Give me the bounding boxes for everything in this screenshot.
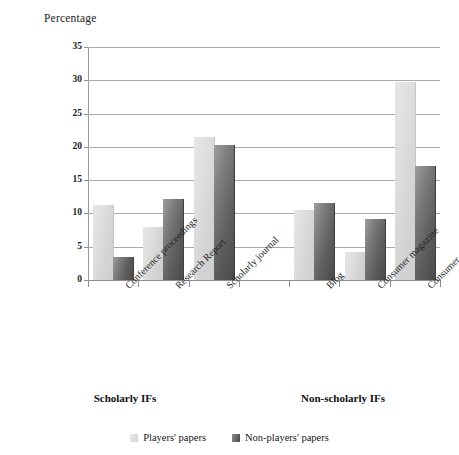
legend-label-players: Players' papers bbox=[143, 432, 206, 443]
y-tick-label-10: 10 bbox=[73, 209, 83, 219]
legend-label-non-players: Non-players' papers bbox=[245, 432, 329, 443]
legend: Players' papers Non-players' papers bbox=[0, 432, 459, 443]
y-tick-label-25: 25 bbox=[73, 109, 83, 119]
y-tick-label-0: 0 bbox=[77, 275, 82, 285]
y-tick-label-5: 5 bbox=[77, 242, 82, 252]
y-tick-label-20: 20 bbox=[73, 142, 83, 152]
bar-consumer-magazine-non-players bbox=[365, 219, 386, 280]
y-axis-title: Percentage bbox=[44, 12, 96, 24]
group-label-scholarly: Scholarly IFs bbox=[30, 392, 220, 404]
legend-item-players: Players' papers bbox=[130, 432, 206, 443]
legend-item-non-players: Non-players' papers bbox=[232, 432, 329, 443]
y-tick-label-35: 35 bbox=[73, 42, 83, 52]
y-tick-label-30: 30 bbox=[73, 76, 83, 86]
bar-consumer-magazine-players bbox=[345, 252, 366, 280]
bar-conference-proceedings-players bbox=[93, 205, 114, 280]
legend-swatch-light-gray-square bbox=[130, 434, 138, 442]
bar-blog-players bbox=[294, 210, 315, 280]
bar-blog-non-players bbox=[314, 203, 335, 280]
bar-scholarly-journal-non-players bbox=[214, 145, 235, 280]
bar-consumer-newspaper-non-players bbox=[415, 166, 436, 281]
x-tick-4 bbox=[289, 280, 290, 287]
bar-chart: Percentage 05101520253035 Conference pro… bbox=[0, 0, 459, 455]
group-label-non-scholarly: Non-scholarly IFs bbox=[243, 392, 443, 404]
legend-swatch-dark-gray-square bbox=[232, 434, 240, 442]
x-tick-0 bbox=[88, 280, 89, 287]
y-tick-label-15: 15 bbox=[73, 175, 83, 185]
